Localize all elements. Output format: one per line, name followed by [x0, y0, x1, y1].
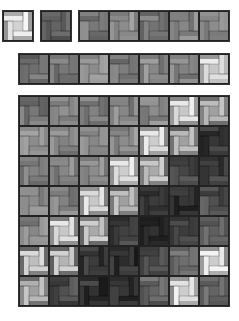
- pinwheel-tile: [169, 54, 199, 84]
- pinwheel-tile: [139, 54, 169, 84]
- pinwheel-tile: [19, 96, 49, 126]
- pinwheel-tile: [79, 216, 109, 246]
- single-tile-a: [3, 11, 33, 41]
- pinwheel-tile: [199, 156, 229, 186]
- pinwheel-tile: [199, 186, 229, 216]
- pinwheel-tile: [49, 126, 79, 156]
- pinwheel-tile: [169, 11, 199, 41]
- pinwheel-tile: [49, 216, 79, 246]
- pinwheel-tile: [79, 186, 109, 216]
- pinwheel-tile: [19, 156, 49, 186]
- pinwheel-tile: [19, 126, 49, 156]
- pinwheel-tile: [49, 54, 79, 84]
- pinwheel-tile: [79, 11, 109, 41]
- pinwheel-tile: [49, 156, 79, 186]
- pinwheel-tile: [199, 96, 229, 126]
- pinwheel-tile: [169, 216, 199, 246]
- pinwheel-tile: [19, 216, 49, 246]
- pinwheel-tile: [19, 276, 49, 306]
- pinwheel-tile: [79, 96, 109, 126]
- pinwheel-tile: [169, 156, 199, 186]
- pinwheel-tile: [199, 246, 229, 276]
- pinwheel-tile: [169, 246, 199, 276]
- pinwheel-tile: [199, 276, 229, 306]
- pinwheel-tile: [49, 246, 79, 276]
- pinwheel-tile: [3, 11, 33, 41]
- pinwheel-tile: [109, 54, 139, 84]
- grid-7x7: [19, 96, 229, 306]
- pinwheel-tile: [109, 11, 139, 41]
- pinwheel-tile: [139, 156, 169, 186]
- pinwheel-tile: [139, 276, 169, 306]
- pinwheel-tile: [169, 96, 199, 126]
- pinwheel-tile: [109, 276, 139, 306]
- pinwheel-tile: [109, 186, 139, 216]
- pinwheel-tile: [169, 186, 199, 216]
- pinwheel-tile: [49, 186, 79, 216]
- pinwheel-tile: [79, 156, 109, 186]
- pinwheel-tile: [139, 216, 169, 246]
- pinwheel-tile: [19, 186, 49, 216]
- pinwheel-tile: [109, 126, 139, 156]
- pinwheel-tile: [109, 246, 139, 276]
- pinwheel-tile: [139, 96, 169, 126]
- pinwheel-tile: [79, 54, 109, 84]
- single-tile-b: [41, 11, 71, 41]
- pinwheel-tile: [19, 246, 49, 276]
- pinwheel-tile: [199, 126, 229, 156]
- pinwheel-tile: [109, 96, 139, 126]
- pinwheel-tile: [49, 96, 79, 126]
- pinwheel-tile: [19, 54, 49, 84]
- strip-5: [79, 11, 229, 41]
- pinwheel-tile: [79, 126, 109, 156]
- pinwheel-tile: [109, 216, 139, 246]
- pinwheel-tile: [139, 246, 169, 276]
- pinwheel-tile: [109, 156, 139, 186]
- pinwheel-tile: [199, 54, 229, 84]
- pinwheel-tile: [199, 216, 229, 246]
- pinwheel-tile: [139, 186, 169, 216]
- pinwheel-tile: [139, 11, 169, 41]
- strip-7: [19, 54, 229, 84]
- pinwheel-tile: [199, 11, 229, 41]
- pinwheel-tile: [169, 276, 199, 306]
- pinwheel-tile: [79, 276, 109, 306]
- pinwheel-tile: [49, 276, 79, 306]
- pinwheel-tile: [79, 246, 109, 276]
- pinwheel-tile: [169, 126, 199, 156]
- pinwheel-tile: [41, 11, 71, 41]
- pinwheel-tile: [139, 126, 169, 156]
